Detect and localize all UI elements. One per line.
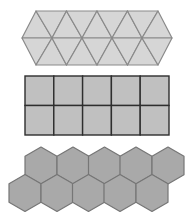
hexagon-tiling: [9, 147, 184, 212]
square: [140, 76, 169, 106]
square: [54, 106, 83, 136]
square: [83, 76, 112, 106]
tilings-figure: [0, 0, 195, 223]
square: [83, 106, 112, 136]
triangle-tiling: [22, 11, 172, 65]
square: [54, 76, 83, 106]
square: [25, 106, 54, 136]
square: [111, 106, 140, 136]
square-tiling: [25, 76, 169, 135]
square: [111, 76, 140, 106]
square: [140, 106, 169, 136]
square: [25, 76, 54, 106]
